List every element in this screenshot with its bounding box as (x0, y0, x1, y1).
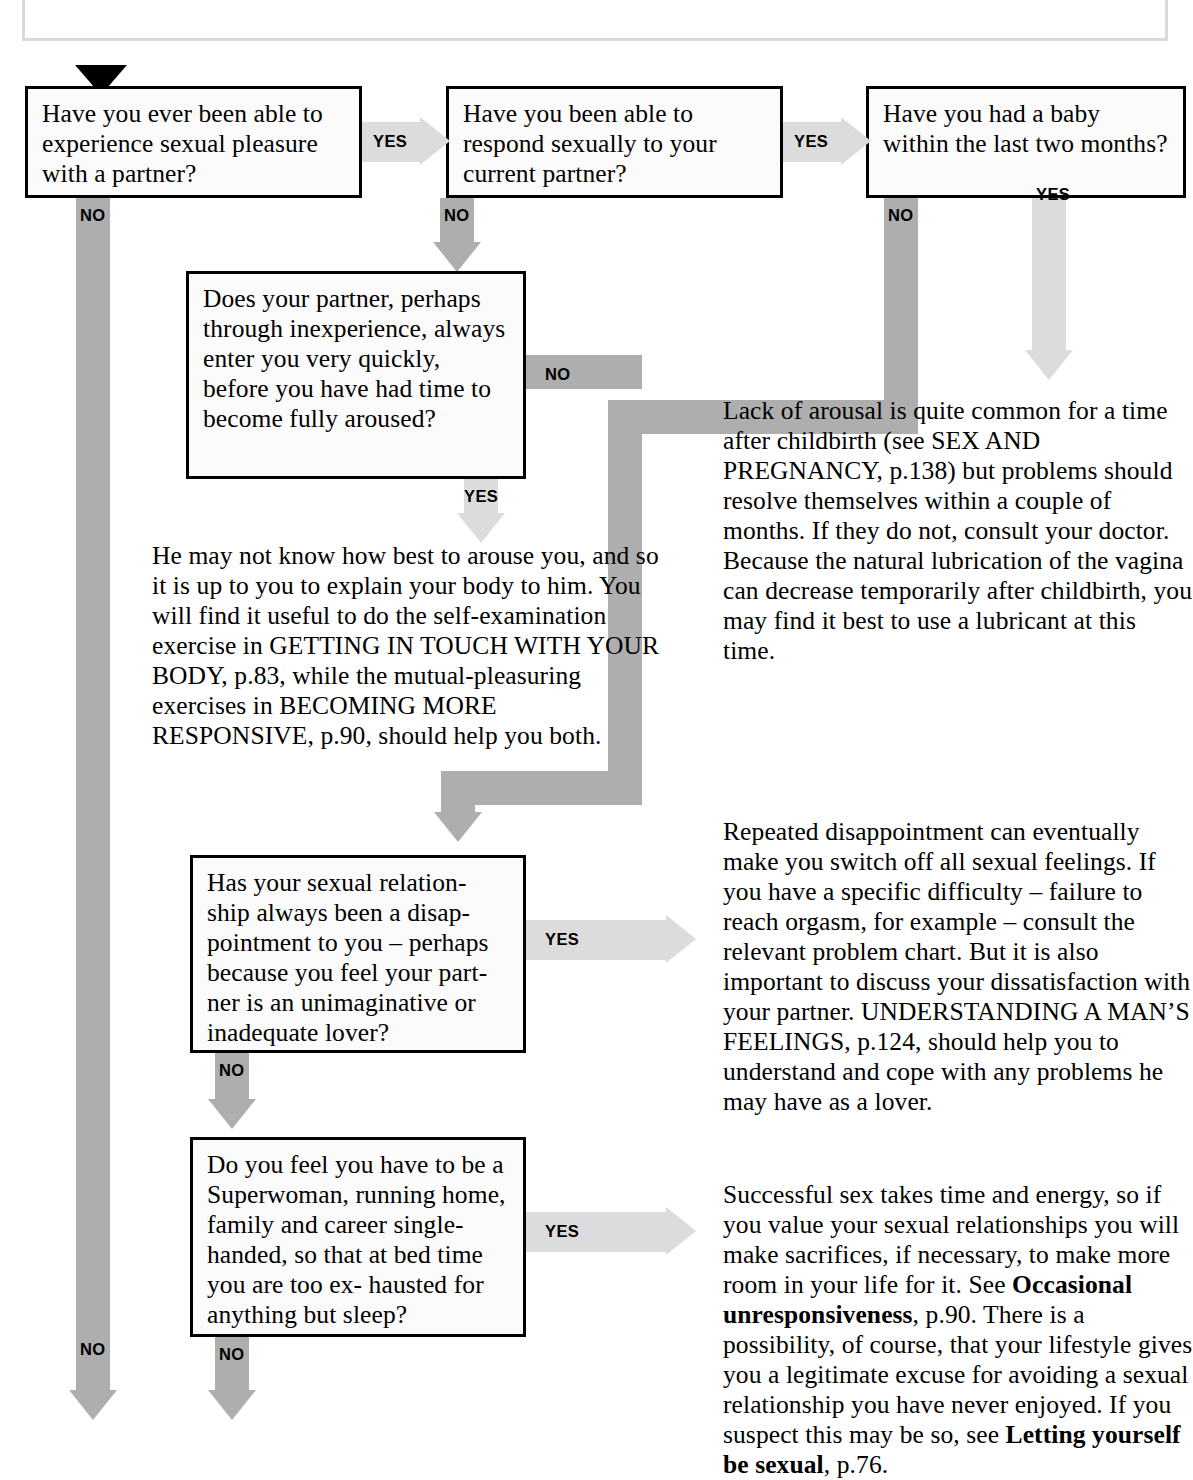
question-text: Has your sexual relation- ship always be… (207, 868, 509, 1048)
edge-q5-yes-arrowhead (666, 915, 696, 963)
edge-label-q3-no: NO (888, 206, 914, 225)
question-text: Does your partner, perhaps through inexp… (203, 284, 509, 434)
answer-paragraph-a2: Lack of arousal is quite common for a ti… (723, 396, 1193, 666)
edge-q3-yes-arrowhead (1025, 350, 1073, 380)
question-text: Have you been able to respond sexually t… (463, 99, 766, 189)
question-box-q3[interactable]: Have you had a baby within the last two … (866, 86, 1186, 198)
edge-label-q2-yes: YES (794, 132, 828, 151)
edge-q5-no-arrowhead (208, 1099, 256, 1129)
question-text: Have you had a baby within the last two … (883, 99, 1169, 159)
question-box-q6[interactable]: Do you feel you have to be a Superwoman,… (190, 1137, 526, 1337)
edge-label-q1-yes: YES (373, 132, 407, 151)
answer-text-part3: , p.76. (824, 1450, 888, 1479)
question-text: Have you ever been able to experience se… (42, 99, 345, 189)
edge-q4-yes-arrowhead (457, 513, 505, 543)
edge-label-q5-no: NO (219, 1061, 245, 1080)
edge-q1-no-shaft (76, 198, 110, 1390)
answer-text: Lack of arousal is quite common for a ti… (723, 396, 1193, 666)
edge-merge-arrowhead-into-q5 (434, 812, 482, 842)
answer-paragraph-a4: Successful sex takes time and energy, so… (723, 1180, 1193, 1480)
question-text: Do you feel you have to be a Superwoman,… (207, 1150, 509, 1330)
edge-label-q1-no-bottom: NO (80, 1340, 106, 1359)
edge-q3-yes-shaft (1032, 198, 1066, 353)
question-box-q4[interactable]: Does your partner, perhaps through inexp… (186, 271, 526, 479)
edge-label-q1-no: NO (80, 206, 106, 225)
edge-label-q2-no: NO (444, 206, 470, 225)
edge-q2-no-arrowhead (433, 242, 481, 272)
question-box-q5[interactable]: Has your sexual relation- ship always be… (190, 855, 526, 1053)
edge-q1-yes-arrowhead (420, 117, 450, 165)
edge-label-q4-yes: YES (464, 487, 498, 506)
question-box-q2[interactable]: Have you been able to respond sexually t… (446, 86, 783, 198)
answer-text: Repeated disappointment can eventually m… (723, 817, 1193, 1117)
page-frame-remnant (22, 0, 1168, 41)
answer-paragraph-a3: Repeated disappointment can eventually m… (723, 817, 1193, 1117)
edge-label-q3-yes: YES (1036, 185, 1070, 204)
edge-merge-shaft-into-q5 (441, 771, 475, 816)
answer-text: He may not know how best to arouse you, … (152, 541, 664, 751)
edge-q6-no-arrowhead (208, 1390, 256, 1420)
question-box-q1[interactable]: Have you ever been able to experience se… (25, 86, 362, 198)
edge-label-q5-yes: YES (545, 930, 579, 949)
edge-label-q6-yes: YES (545, 1222, 579, 1241)
edge-q4-no-shaft (526, 355, 642, 389)
edge-q2-yes-arrowhead (841, 117, 871, 165)
edge-label-q4-no: NO (545, 365, 571, 384)
answer-paragraph-a1: He may not know how best to arouse you, … (152, 541, 664, 751)
edge-label-q6-no-bottom: NO (219, 1345, 245, 1364)
edge-q6-yes-arrowhead (666, 1207, 696, 1255)
edge-q1-no-arrowhead (69, 1390, 117, 1420)
